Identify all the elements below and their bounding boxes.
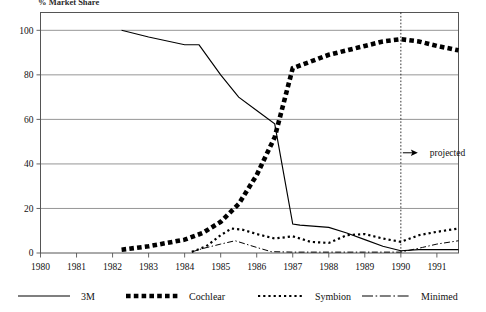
chart-title: % Market Share bbox=[38, 0, 99, 7]
projected-label: projected bbox=[430, 148, 466, 158]
legend-label: 3M bbox=[81, 291, 95, 302]
y-tick-label: 60 bbox=[24, 115, 34, 125]
x-tick-label: 1980 bbox=[31, 262, 50, 272]
legend-label: Cochlear bbox=[189, 291, 226, 302]
legend-label: Minimed bbox=[421, 291, 458, 302]
y-tick-label: 20 bbox=[24, 204, 34, 214]
x-tick-label: 1986 bbox=[247, 262, 266, 272]
x-tick-label: 1991 bbox=[427, 262, 446, 272]
x-tick-label: 1984 bbox=[175, 262, 194, 272]
market-share-line-chart: % Market Share 020406080100 198019811982… bbox=[0, 0, 486, 312]
legend-label: Symbion bbox=[315, 291, 351, 302]
x-tick-label: 1981 bbox=[67, 262, 86, 272]
y-tick-label: 0 bbox=[29, 248, 34, 258]
x-tick-label: 1985 bbox=[211, 262, 230, 272]
x-tick-label: 1990 bbox=[391, 262, 410, 272]
x-tick-label: 1982 bbox=[103, 262, 122, 272]
x-tick-label: 1988 bbox=[319, 262, 338, 272]
y-tick-label: 80 bbox=[24, 70, 34, 80]
y-tick-label: 40 bbox=[24, 159, 34, 169]
x-tick-label: 1983 bbox=[139, 262, 158, 272]
x-tick-label: 1989 bbox=[355, 262, 374, 272]
chart-container: % Market Share 020406080100 198019811982… bbox=[0, 0, 486, 312]
y-tick-label: 100 bbox=[19, 26, 34, 36]
x-tick-label: 1987 bbox=[283, 262, 302, 272]
